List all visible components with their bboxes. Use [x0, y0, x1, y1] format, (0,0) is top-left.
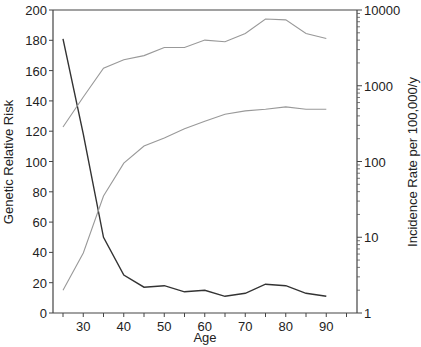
y-tick-label: 20 — [33, 276, 47, 291]
y-tick-label: 0 — [40, 306, 47, 321]
x-tick-label: 30 — [76, 319, 90, 334]
y-axis-right: 110100100010000 — [357, 3, 400, 321]
x-tick-label: 40 — [117, 319, 131, 334]
x-tick-label: 50 — [157, 319, 171, 334]
y-axis-title: Genetic Relative Risk — [1, 99, 16, 224]
y-tick-label: 200 — [25, 3, 47, 18]
y-tick-label: 80 — [33, 185, 47, 200]
x-tick-label: 80 — [279, 319, 293, 334]
y-tick-label: 120 — [25, 124, 47, 139]
y-tick-label: 140 — [25, 94, 47, 109]
y2-tick-label: 1000 — [364, 79, 393, 94]
series-layer — [63, 19, 326, 296]
series-line-0 — [63, 39, 326, 297]
y-tick-label: 40 — [33, 245, 47, 260]
x-tick-label: 90 — [319, 319, 333, 334]
y-tick-label: 180 — [25, 33, 47, 48]
y2-tick-label: 1 — [364, 306, 371, 321]
plot-frame — [53, 10, 357, 313]
y2-tick-label: 100 — [364, 155, 386, 170]
y-axis-left: 020406080100120140160180200 — [25, 3, 53, 321]
y2-axis-title: Incidence Rate per 100,000/y — [405, 77, 420, 247]
x-tick-label: 70 — [238, 319, 252, 334]
chart: 30405060708090 0204060801001201401601802… — [0, 0, 421, 347]
y-tick-label: 100 — [25, 155, 47, 170]
series-line-2 — [63, 107, 326, 290]
y-tick-label: 160 — [25, 64, 47, 79]
y2-tick-label: 10000 — [364, 3, 400, 18]
y-tick-label: 60 — [33, 215, 47, 230]
x-axis-title: Age — [193, 330, 216, 345]
y2-tick-label: 10 — [364, 230, 378, 245]
series-line-1 — [63, 19, 326, 127]
